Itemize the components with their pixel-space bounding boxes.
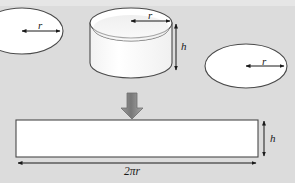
cylinder-interior-shade <box>93 15 169 41</box>
right-circle-group <box>205 44 287 88</box>
right-circle-radius-label: r <box>262 56 266 67</box>
cylinder-diagram-svg <box>0 0 295 183</box>
unrolled-rectangle-shape <box>16 120 258 157</box>
figure-canvas: r r h r h 2πr <box>0 0 295 183</box>
left-circle-group <box>0 8 63 54</box>
left-circle-radius-label: r <box>38 20 42 31</box>
rectangle-height-label: h <box>270 133 276 144</box>
cylinder-radius-label: r <box>148 10 152 21</box>
cylinder-height-label: h <box>181 41 187 52</box>
transform-arrow-group <box>121 93 143 119</box>
cylinder-group <box>90 8 176 78</box>
transform-down-arrow-icon <box>121 93 143 119</box>
unrolled-rectangle-group <box>16 120 264 163</box>
rectangle-width-label: 2πr <box>124 166 140 178</box>
